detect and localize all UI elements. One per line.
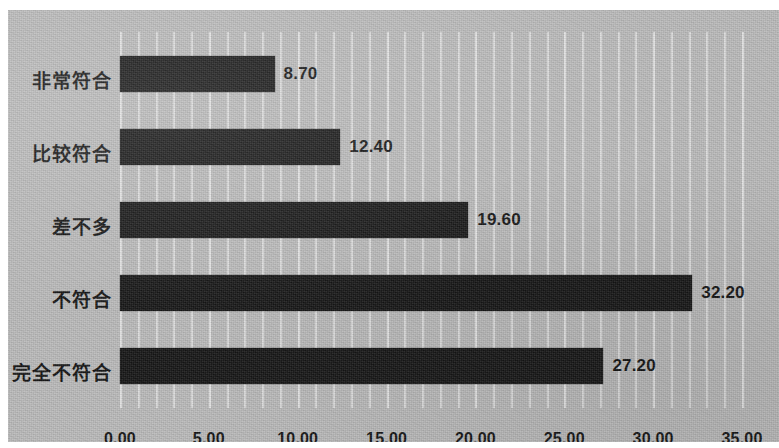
bar-chart-figure: 非常符合 比较符合 差不多 不符合 完全不符合 8.70 12.40 19. (0, 0, 779, 448)
category-axis: 非常符合 比较符合 差不多 不符合 完全不符合 (8, 10, 112, 408)
bar-value-label-2: 19.60 (477, 202, 521, 238)
bar-band: 27.20 (120, 334, 742, 407)
bar-2 (120, 202, 468, 238)
bar-value-label-3: 32.20 (701, 275, 745, 311)
plot-area: 8.70 12.40 19.60 32.20 27.20 (120, 10, 742, 408)
gridline-major (742, 32, 744, 408)
bar-band: 12.40 (120, 115, 742, 188)
category-label-2: 差不多 (8, 212, 112, 239)
bar-band: 32.20 (120, 261, 742, 334)
chart-plot-plate: 非常符合 比较符合 差不多 不符合 完全不符合 8.70 12.40 19. (8, 10, 779, 442)
x-tick-label: 10.00 (277, 430, 318, 442)
category-label-0: 非常符合 (8, 66, 112, 93)
bar-4 (120, 348, 603, 384)
category-label-1: 比较符合 (8, 139, 112, 166)
x-tick-label: 0.00 (104, 430, 136, 442)
bar-value-label-4: 27.20 (612, 348, 656, 384)
value-axis: 0.005.0010.0015.0020.0025.0030.0035.00 (120, 408, 742, 442)
x-tick-label: 25.00 (544, 430, 585, 442)
bar-0 (120, 56, 275, 92)
x-tick-label: 5.00 (193, 430, 225, 442)
bar-value-label-0: 8.70 (284, 56, 318, 92)
x-tick-label: 35.00 (721, 430, 762, 442)
bar-3 (120, 275, 692, 311)
category-label-3: 不符合 (8, 285, 112, 312)
category-label-4: 完全不符合 (8, 358, 112, 385)
bar-value-label-1: 12.40 (349, 129, 393, 165)
x-tick-label: 20.00 (455, 430, 496, 442)
bar-band: 8.70 (120, 42, 742, 115)
bar-1 (120, 129, 340, 165)
bar-band: 19.60 (120, 188, 742, 261)
x-tick-label: 15.00 (366, 430, 407, 442)
x-tick-label: 30.00 (633, 430, 674, 442)
